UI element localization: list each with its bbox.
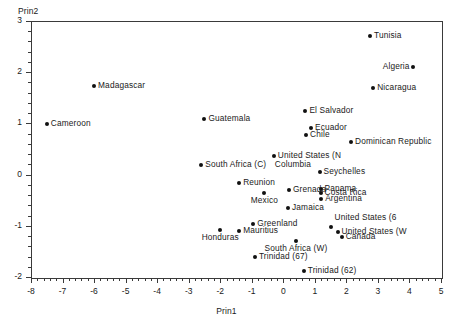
x-axis-minor-tick [138, 278, 139, 281]
y-axis-minor-tick [28, 257, 31, 258]
y-axis-minor-tick [28, 185, 31, 186]
data-point-label: Chile [310, 130, 330, 140]
x-axis-minor-tick [258, 278, 259, 281]
x-axis-tick-label: -7 [48, 286, 78, 296]
x-axis-minor-tick [119, 278, 120, 281]
data-point-label: Reunion [243, 179, 275, 189]
y-axis-minor-tick [28, 154, 31, 155]
x-axis-tick-label: -3 [174, 286, 204, 296]
data-point [329, 225, 333, 229]
x-axis-minor-tick [428, 278, 429, 281]
y-axis-minor-tick [28, 62, 31, 63]
x-axis-minor-tick [50, 278, 51, 281]
x-axis-minor-tick [403, 278, 404, 281]
x-axis-tick [189, 278, 190, 283]
x-axis-tick [63, 278, 64, 283]
x-axis-tick [441, 278, 442, 283]
data-point-label: Jamaica [292, 203, 324, 213]
x-axis-tick [252, 278, 253, 283]
y-axis-minor-tick [28, 41, 31, 42]
x-axis-minor-tick [163, 278, 164, 281]
x-axis-minor-tick [264, 278, 265, 281]
x-axis-minor-tick [340, 278, 341, 281]
scatter-plot-figure: Prin2 -2-10123-8-7-6-5-4-3-2-1012345 Tun… [0, 0, 453, 327]
x-axis-minor-tick [271, 278, 272, 281]
x-axis-minor-tick [372, 278, 373, 281]
data-point-label: Argentina [325, 194, 362, 204]
x-axis-minor-tick [132, 278, 133, 281]
x-axis-minor-tick [359, 278, 360, 281]
x-axis-minor-tick [37, 278, 38, 281]
x-axis-minor-tick [182, 278, 183, 281]
x-axis-tick [346, 278, 347, 283]
data-point-label: South Africa (C) [205, 161, 266, 171]
y-axis-tick-label: 0 [0, 169, 22, 179]
y-axis-minor-tick [28, 103, 31, 104]
data-point-label: Nicaragua [377, 83, 416, 93]
x-axis-tick [31, 278, 32, 283]
x-axis-minor-tick [170, 278, 171, 281]
x-axis-tick [157, 278, 158, 283]
x-axis-minor-tick [88, 278, 89, 281]
data-point-label: Dominican Republic [355, 137, 432, 147]
y-axis-tick-label: 1 [0, 117, 22, 127]
data-point [302, 269, 306, 273]
data-point-label: Columbia [275, 160, 311, 170]
data-point-label: Trinidad (67) [259, 252, 308, 262]
data-point [253, 255, 257, 259]
x-axis-tick-label: 2 [331, 286, 361, 296]
y-axis-tick-label: 3 [0, 15, 22, 25]
y-axis-minor-tick [28, 267, 31, 268]
x-axis-minor-tick [227, 278, 228, 281]
y-axis-tick-label: 2 [0, 66, 22, 76]
y-axis-minor-tick [28, 144, 31, 145]
y-axis-minor-tick [28, 216, 31, 217]
x-axis-minor-tick [56, 278, 57, 281]
y-axis-minor-tick [28, 82, 31, 83]
y-axis-minor-tick [28, 93, 31, 94]
x-axis-minor-tick [176, 278, 177, 281]
x-axis-minor-tick [365, 278, 366, 281]
y-axis-minor-tick [28, 205, 31, 206]
x-axis-minor-tick [353, 278, 354, 281]
x-axis-minor-tick [290, 278, 291, 281]
x-axis-minor-tick [233, 278, 234, 281]
x-axis-minor-tick [81, 278, 82, 281]
y-axis-minor-tick [28, 164, 31, 165]
x-axis-minor-tick [391, 278, 392, 281]
x-axis-tick [378, 278, 379, 283]
y-axis-minor-tick [28, 52, 31, 53]
data-point [318, 170, 322, 174]
data-point-label: United States (6 [335, 214, 397, 224]
data-point [340, 235, 344, 239]
x-axis-tick-label: -6 [79, 286, 109, 296]
data-point-label: Algeria [383, 62, 410, 72]
x-axis-minor-tick [195, 278, 196, 281]
x-axis-minor-tick [151, 278, 152, 281]
y-axis-tick [26, 123, 31, 124]
data-point [319, 197, 323, 201]
data-point-label: El Salvador [309, 106, 353, 116]
x-axis-minor-tick [113, 278, 114, 281]
data-point-label: Madagascar [98, 81, 145, 91]
x-axis-tick [94, 278, 95, 283]
y-axis-tick-label: -1 [0, 220, 22, 230]
x-axis-tick-label: 4 [394, 286, 424, 296]
x-axis-minor-tick [100, 278, 101, 281]
data-point-label: Guatemala [208, 115, 250, 125]
x-axis-minor-tick [145, 278, 146, 281]
y-axis-tick-label: -2 [0, 271, 22, 281]
x-axis-tick-label: -2 [205, 286, 235, 296]
x-axis-tick-label: 0 [268, 286, 298, 296]
x-axis-minor-tick [277, 278, 278, 281]
x-axis-minor-tick [334, 278, 335, 281]
x-axis-minor-tick [44, 278, 45, 281]
x-axis-tick-label: 5 [426, 286, 453, 296]
data-point-label: Cameroon [51, 120, 91, 130]
data-point-label: Trinidad (62) [308, 266, 357, 276]
y-axis-minor-tick [28, 246, 31, 247]
x-axis-minor-tick [384, 278, 385, 281]
x-axis-title: Prin1 [0, 306, 453, 316]
x-axis-minor-tick [208, 278, 209, 281]
y-axis-tick [26, 72, 31, 73]
